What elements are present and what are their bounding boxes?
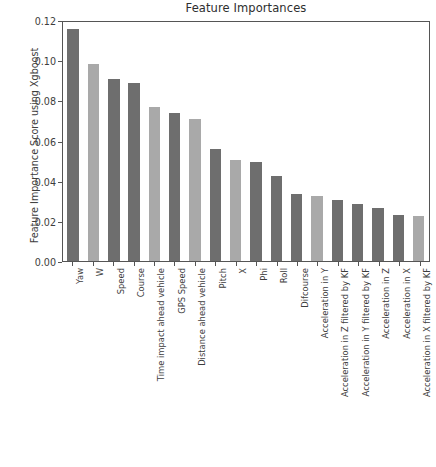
bar	[352, 204, 363, 261]
x-tick-slot: Phi	[246, 262, 266, 462]
x-tick-mark	[297, 262, 298, 266]
bar	[230, 160, 241, 261]
bar-slot	[348, 22, 368, 261]
x-axis: YawWSpeedCourseTime impact ahead vehicle…	[62, 262, 430, 462]
figure-container: Feature Importances Feature Importance S…	[0, 0, 436, 467]
x-tick-mark	[215, 262, 216, 266]
x-tick-mark	[93, 262, 94, 266]
bar	[332, 200, 343, 261]
chart-title: Feature Importances	[62, 1, 430, 15]
x-tick-slot: Pitch	[205, 262, 225, 462]
x-tick-slot: Roll	[266, 262, 286, 462]
bar-slot	[409, 22, 429, 261]
bar-slot	[205, 22, 225, 261]
x-tick-slot: Yaw	[62, 262, 82, 462]
x-tick-mark	[420, 262, 421, 266]
x-tick-mark	[72, 262, 73, 266]
x-tick-slot: Course	[123, 262, 143, 462]
bar-slot	[63, 22, 83, 261]
x-tick-mark	[358, 262, 359, 266]
bar	[88, 64, 99, 261]
bar-slot	[83, 22, 103, 261]
bar-slot	[307, 22, 327, 261]
bar	[189, 119, 200, 261]
bar-slot	[266, 22, 286, 261]
bar-slot	[226, 22, 246, 261]
bar-slot	[368, 22, 388, 261]
y-tick-label: 0.00	[0, 257, 56, 268]
x-tick-mark	[256, 262, 257, 266]
bar	[291, 194, 302, 261]
x-tick-mark	[236, 262, 237, 266]
x-tick-slot: Speed	[103, 262, 123, 462]
y-tick-label: 0.06	[0, 136, 56, 147]
bar	[372, 208, 383, 261]
bar-slot	[388, 22, 408, 261]
x-tick-mark	[154, 262, 155, 266]
bar-slot	[246, 22, 266, 261]
bar	[149, 107, 160, 261]
bar	[311, 196, 322, 261]
x-tick-mark	[338, 262, 339, 266]
x-tick-slot: Acceleration in Y filtered by KF	[348, 262, 368, 462]
x-tick-slot: Acceleration in X filtered by KF	[409, 262, 429, 462]
bar-slot	[124, 22, 144, 261]
bar	[169, 113, 180, 261]
bar-slot	[144, 22, 164, 261]
y-tick-label: 0.08	[0, 96, 56, 107]
bar-slot	[185, 22, 205, 261]
x-tick-slot: GPS Speed	[164, 262, 184, 462]
x-tick-slot: Acceleration in X	[389, 262, 409, 462]
bar-slot	[165, 22, 185, 261]
bar	[128, 83, 139, 261]
x-tick-mark	[379, 262, 380, 266]
bar	[393, 215, 404, 261]
y-tick-label: 0.12	[0, 16, 56, 27]
y-tick-label: 0.02	[0, 216, 56, 227]
x-tick-slot: Acceleration in Z	[369, 262, 389, 462]
bar	[250, 162, 261, 261]
x-tick-mark	[174, 262, 175, 266]
bar	[210, 149, 221, 261]
bar	[271, 176, 282, 261]
x-tick-mark	[317, 262, 318, 266]
x-tick-slot: Acceleration in Y	[307, 262, 327, 462]
bar-slot	[104, 22, 124, 261]
plot-area	[62, 21, 430, 262]
y-tick-label: 0.04	[0, 176, 56, 187]
bar	[413, 216, 424, 261]
y-tick-label: 0.10	[0, 56, 56, 67]
x-tick-mark	[399, 262, 400, 266]
x-tick-label: Acceleration in X filtered by KF	[423, 268, 431, 397]
bar-slot	[327, 22, 347, 261]
x-tick-slot: Difcourse	[287, 262, 307, 462]
x-tick-mark	[113, 262, 114, 266]
x-tick-slot: Distance ahead vehicle	[185, 262, 205, 462]
x-tick-slot: W	[82, 262, 102, 462]
bar-series	[63, 22, 429, 261]
x-tick-mark	[134, 262, 135, 266]
figure-caption	[0, 458, 436, 467]
bar	[67, 29, 78, 261]
bar	[108, 79, 119, 261]
x-tick-slot: Acceleration in Z filtered by KF	[328, 262, 348, 462]
x-tick-slot: Time impact ahead vehicle	[144, 262, 164, 462]
x-tick-mark	[277, 262, 278, 266]
bar-slot	[287, 22, 307, 261]
x-tick-slot: X	[226, 262, 246, 462]
x-tick-mark	[195, 262, 196, 266]
